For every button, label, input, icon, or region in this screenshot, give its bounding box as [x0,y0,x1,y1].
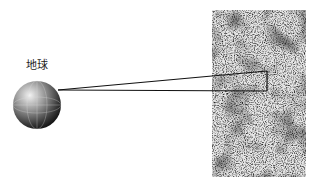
terrain-texture [212,10,306,177]
earth-globe-icon [13,81,61,129]
diagram-canvas [0,0,318,192]
